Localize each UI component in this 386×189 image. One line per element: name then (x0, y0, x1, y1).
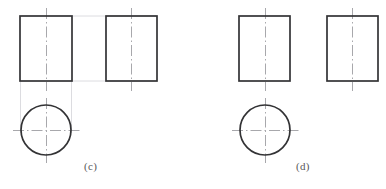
panel-d (232, 8, 378, 163)
engineering-drawing-canvas (0, 0, 386, 189)
panel-c-projection-lines (21, 16, 158, 133)
figure-label-c: (c) (84, 160, 97, 172)
panel-d-centerlines (232, 8, 353, 163)
panel-c (13, 8, 157, 163)
figure-label-d: (d) (296, 160, 310, 172)
front-view-rectangle (239, 16, 290, 81)
